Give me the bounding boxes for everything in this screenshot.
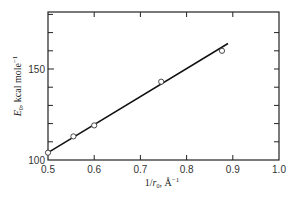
x-ticks-bottom xyxy=(94,155,233,160)
data-point xyxy=(92,123,97,128)
y-tick-label-150: 150 xyxy=(28,64,45,75)
x-axis-title: 1/r0, Å−1 xyxy=(145,176,180,189)
data-point xyxy=(159,79,164,84)
y-ticks-right xyxy=(274,33,279,142)
data-point xyxy=(219,48,224,53)
y-axis-title: E0, kcal mole−1 xyxy=(11,55,24,117)
x-ticks-top xyxy=(94,12,233,17)
x-tick-label-1.0: 1.0 xyxy=(272,164,286,175)
chart: 100 150 0.5 0.6 0.7 0.8 0.9 1.0 1/r0, Å−… xyxy=(0,0,295,198)
plot-frame xyxy=(48,12,279,160)
data-point xyxy=(71,134,76,139)
x-tick-label-0.8: 0.8 xyxy=(180,164,194,175)
x-tick-label-0.5: 0.5 xyxy=(41,164,55,175)
data-point xyxy=(45,150,50,155)
x-tick-label-0.9: 0.9 xyxy=(226,164,240,175)
x-tick-label-0.6: 0.6 xyxy=(87,164,101,175)
y-ticks-left xyxy=(48,14,54,141)
data-points xyxy=(45,48,224,155)
x-tick-label-0.7: 0.7 xyxy=(133,164,147,175)
